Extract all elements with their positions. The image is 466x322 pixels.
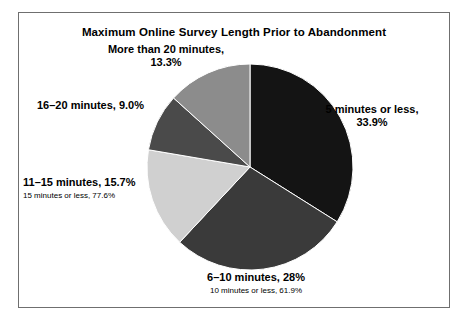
pie-label-6-10-minutes: 6–10 minutes, 28% 10 minutes or less, 61… bbox=[171, 271, 341, 296]
pie-slice-group bbox=[147, 64, 353, 270]
pie-label-5-minutes-or-less: 5 minutes or less, 33.9% bbox=[307, 103, 437, 129]
pie-label-more-than-20-minutes-line2: 13.3% bbox=[150, 56, 181, 68]
pie-label-more-than-20-minutes-line1: More than 20 minutes, bbox=[108, 43, 224, 55]
pie-label-16-20-minutes: 16–20 minutes, 9.0% bbox=[37, 99, 187, 112]
pie-label-5-minutes-or-less-line2: 33.9% bbox=[356, 116, 387, 128]
pie-label-5-minutes-or-less-line1: 5 minutes or less, bbox=[326, 103, 419, 115]
pie-label-16-20-minutes-line1: 16–20 minutes, 9.0% bbox=[37, 99, 144, 111]
pie-label-more-than-20-minutes: More than 20 minutes, 13.3% bbox=[91, 43, 241, 69]
pie-label-6-10-minutes-line1: 6–10 minutes, 28% bbox=[207, 271, 305, 283]
pie-label-11-15-minutes-subnote: 15 minutes or less, 77.6% bbox=[23, 190, 193, 201]
pie-label-11-15-minutes-line1: 11–15 minutes, 15.7% bbox=[23, 176, 136, 188]
pie-label-6-10-minutes-subnote: 10 minutes or less, 61.9% bbox=[171, 285, 341, 296]
chart-figure-frame: Maximum Online Survey Length Prior to Ab… bbox=[18, 12, 450, 308]
pie-label-11-15-minutes: 11–15 minutes, 15.7% 15 minutes or less,… bbox=[23, 176, 193, 201]
